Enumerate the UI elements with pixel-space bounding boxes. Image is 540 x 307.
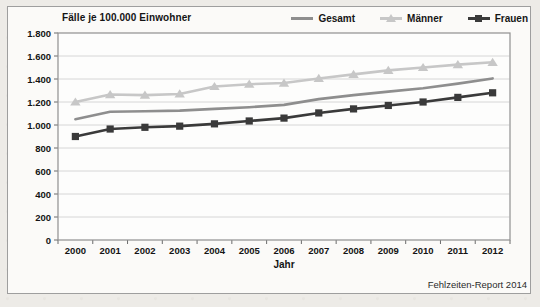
legend-swatch-square-icon <box>468 14 490 23</box>
x-tick-label: 2003 <box>169 245 190 256</box>
y-tick-label: 200 <box>35 212 51 223</box>
legend: GesamtMännerFrauen <box>291 13 528 24</box>
y-tick-label: 400 <box>35 189 51 200</box>
data-point-square <box>419 98 426 105</box>
data-point-square <box>141 124 148 131</box>
y-tick-label: 1.600 <box>27 51 51 62</box>
legend-label: Männer <box>407 13 443 24</box>
source-label: Fehlzeiten-Report 2014 <box>428 279 527 290</box>
x-tick-label: 2001 <box>100 245 122 256</box>
data-point-square <box>315 109 322 116</box>
x-tick-label: 2009 <box>378 245 399 256</box>
legend-item-gesamt: Gesamt <box>291 13 355 24</box>
legend-square-icon <box>475 15 482 22</box>
data-point-square <box>280 115 287 122</box>
x-tick-label: 2006 <box>273 245 294 256</box>
legend-item-frauen: Frauen <box>468 13 528 24</box>
x-tick-label: 2004 <box>204 245 226 256</box>
data-point-square <box>72 133 79 140</box>
chart-title: Fälle je 100.000 Einwohner <box>62 12 191 23</box>
data-point-square <box>176 123 183 130</box>
y-tick-label: 800 <box>35 143 51 154</box>
y-tick-label: 1.800 <box>27 28 51 39</box>
legend-swatch-line-icon <box>291 14 313 23</box>
legend-swatch-triangle-icon <box>380 14 402 23</box>
data-point-square <box>454 94 461 101</box>
plot-area <box>58 33 510 240</box>
legend-line-icon <box>291 17 313 20</box>
y-tick-label: 1.200 <box>27 97 51 108</box>
legend-label: Frauen <box>495 13 528 24</box>
y-tick-label: 1.000 <box>27 120 51 131</box>
x-tick-label: 2011 <box>448 245 469 256</box>
x-tick-label: 2007 <box>308 245 329 256</box>
x-tick-label: 2002 <box>134 245 155 256</box>
x-tick-label: 2008 <box>343 245 364 256</box>
data-point-square <box>211 120 218 127</box>
legend-item-maenner: Männer <box>380 13 443 24</box>
x-tick-label: 2005 <box>239 245 261 256</box>
data-point-square <box>246 117 253 124</box>
y-tick-label: 0 <box>46 235 51 246</box>
data-point-square <box>107 125 114 132</box>
x-axis-title: Jahr <box>58 259 510 270</box>
y-tick-label: 1.400 <box>27 74 51 85</box>
scanned-page-background: 02004006008001.0001.2001.4001.6001.80020… <box>0 0 540 307</box>
legend-triangle-icon <box>386 14 396 22</box>
data-point-square <box>350 105 357 112</box>
x-tick-label: 2000 <box>65 245 86 256</box>
x-tick-label: 2010 <box>413 245 434 256</box>
legend-label: Gesamt <box>318 13 355 24</box>
y-tick-label: 600 <box>35 166 51 177</box>
data-point-square <box>489 89 496 96</box>
x-tick-label: 2012 <box>482 245 503 256</box>
data-point-square <box>385 102 392 109</box>
